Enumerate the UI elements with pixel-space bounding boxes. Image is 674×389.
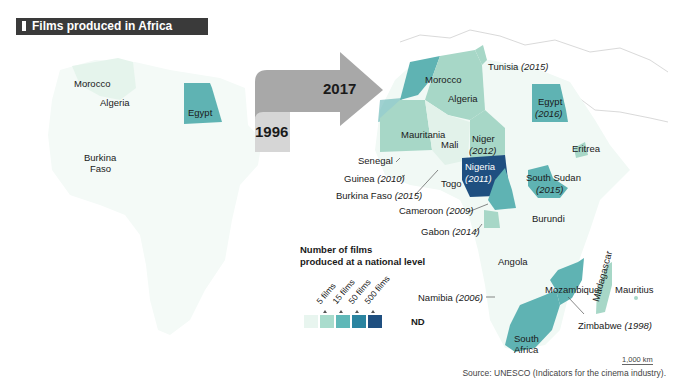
map-1996 — [48, 58, 262, 335]
label-south-sudan-year: (2015) — [536, 184, 563, 195]
legend-swatch-15-50 — [336, 315, 350, 328]
label-zimbabwe: Zimbabwe (1998) — [578, 320, 652, 331]
legend-tick-marks — [323, 310, 375, 313]
scale-bar: 1,000 km — [622, 355, 653, 365]
africa-1996-silhouette — [48, 60, 262, 335]
label-eritrea: Eritrea — [572, 143, 600, 154]
label-niger-year: (2012) — [469, 145, 496, 156]
arrow-year-2017: 2017 — [323, 80, 356, 97]
label-burundi: Burundi — [532, 213, 565, 224]
label-guinea: Guinea (2010) — [344, 173, 405, 184]
country-gabon — [484, 210, 500, 228]
legend-title-line1: Number of films — [300, 244, 425, 256]
label-niger: Niger — [472, 133, 495, 144]
label-burkina-faso: Burkina Faso (2015) — [336, 190, 422, 201]
label-egypt-year: (2016) — [535, 108, 562, 119]
arrow-year-1996: 1996 — [255, 123, 288, 140]
label-nigeria: Nigeria — [465, 161, 495, 172]
label-cameroon: Cameroon (2009) — [399, 205, 473, 216]
label-morocco: Morocco — [425, 74, 461, 85]
label-tunisia: Tunisia (2015) — [488, 61, 548, 72]
legend-swatch-lt5 — [304, 315, 318, 328]
legend-swatch-50-500 — [352, 315, 366, 328]
label-south-africa-line2: Africa — [514, 344, 538, 355]
country-mauritius — [634, 296, 638, 300]
label-angola: Angola — [498, 256, 528, 267]
label-nigeria-year: (2011) — [465, 173, 492, 184]
label-burkina-1996-line2: Faso — [90, 163, 111, 174]
label-mauritius: Mauritius — [615, 284, 654, 295]
legend-title-line2: produced at a national level — [300, 256, 425, 268]
label-gabon: Gabon (2014) — [421, 226, 480, 237]
source-note: Source: UNESCO (Indicators for the cinem… — [462, 368, 666, 378]
label-algeria: Algeria — [448, 93, 478, 104]
label-south-sudan: South Sudan — [526, 172, 581, 183]
label-morocco-1996: Morocco — [74, 78, 110, 89]
label-egypt: Egypt — [538, 96, 562, 107]
label-togo: Togo — [441, 178, 462, 189]
legend-swatch-5-15 — [320, 315, 334, 328]
label-senegal: Senegal — [358, 155, 393, 166]
label-namibia: Namibia (2006) — [418, 292, 483, 303]
label-burkina-1996-line1: Burkina — [84, 152, 116, 163]
legend-nd-label: ND — [411, 316, 425, 327]
label-algeria-1996: Algeria — [100, 97, 130, 108]
legend-swatch-gt500 — [368, 315, 382, 328]
label-egypt-1996: Egypt — [188, 107, 212, 118]
label-mali: Mali — [441, 139, 458, 150]
label-mauritania: Mauritania — [401, 129, 445, 140]
legend-title: Number of films produced at a national l… — [300, 244, 425, 268]
label-south-africa-line1: South — [514, 333, 539, 344]
